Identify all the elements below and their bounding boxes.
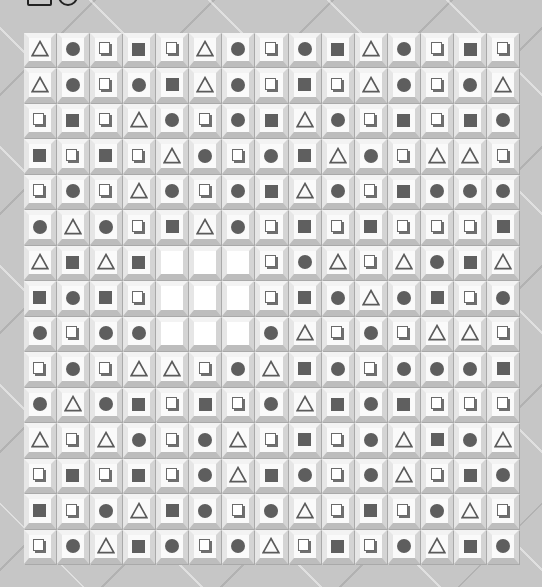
tile[interactable] (222, 139, 254, 174)
tile[interactable] (90, 33, 122, 68)
tile[interactable] (322, 352, 354, 387)
tile[interactable] (388, 33, 420, 68)
tile[interactable] (388, 281, 420, 316)
tile[interactable] (57, 352, 89, 387)
tile[interactable] (388, 68, 420, 103)
tile[interactable] (355, 494, 387, 529)
tile[interactable] (90, 104, 122, 139)
tile[interactable] (289, 352, 321, 387)
tile[interactable] (123, 281, 155, 316)
tile[interactable] (189, 494, 221, 529)
tile[interactable] (487, 68, 519, 103)
tile[interactable] (421, 139, 453, 174)
tile[interactable] (322, 423, 354, 458)
tile[interactable] (388, 352, 420, 387)
tile[interactable] (255, 33, 287, 68)
tile[interactable] (57, 68, 89, 103)
tile[interactable] (454, 246, 486, 281)
tile[interactable] (222, 352, 254, 387)
tile[interactable] (388, 388, 420, 423)
tile[interactable] (421, 459, 453, 494)
tile[interactable] (322, 388, 354, 423)
tile[interactable] (454, 494, 486, 529)
tile[interactable] (487, 352, 519, 387)
tile[interactable] (24, 281, 56, 316)
tile[interactable] (24, 246, 56, 281)
tile[interactable] (454, 352, 486, 387)
tile[interactable] (24, 210, 56, 245)
tile[interactable] (289, 68, 321, 103)
tile[interactable] (222, 494, 254, 529)
tile[interactable] (123, 423, 155, 458)
tile[interactable] (289, 530, 321, 565)
tile[interactable] (454, 210, 486, 245)
tile[interactable] (90, 68, 122, 103)
tile[interactable] (355, 139, 387, 174)
tile[interactable] (90, 246, 122, 281)
tile[interactable] (24, 33, 56, 68)
tile[interactable] (388, 423, 420, 458)
tile[interactable] (123, 104, 155, 139)
tile[interactable] (454, 459, 486, 494)
tile[interactable] (454, 68, 486, 103)
tile[interactable] (355, 388, 387, 423)
tile[interactable] (123, 246, 155, 281)
tile[interactable] (222, 104, 254, 139)
tile[interactable] (123, 459, 155, 494)
tile[interactable] (156, 388, 188, 423)
tile[interactable] (222, 210, 254, 245)
tile[interactable] (322, 317, 354, 352)
tile[interactable] (90, 494, 122, 529)
tile[interactable] (421, 104, 453, 139)
tile[interactable] (123, 33, 155, 68)
tile[interactable] (421, 246, 453, 281)
tile[interactable] (123, 175, 155, 210)
tile[interactable] (189, 459, 221, 494)
tile[interactable] (255, 139, 287, 174)
tile[interactable] (355, 352, 387, 387)
tile[interactable] (156, 68, 188, 103)
tile[interactable] (355, 104, 387, 139)
tile[interactable] (156, 210, 188, 245)
tile[interactable] (388, 459, 420, 494)
tile[interactable] (289, 175, 321, 210)
tile[interactable] (421, 388, 453, 423)
tile[interactable] (289, 104, 321, 139)
tile[interactable] (24, 139, 56, 174)
tile[interactable] (289, 459, 321, 494)
tile[interactable] (289, 210, 321, 245)
tile[interactable] (289, 388, 321, 423)
tile[interactable] (355, 317, 387, 352)
circle-icon[interactable] (58, 0, 78, 6)
tile[interactable] (454, 281, 486, 316)
tile[interactable] (90, 530, 122, 565)
tile[interactable] (487, 175, 519, 210)
tile[interactable] (255, 459, 287, 494)
tile[interactable] (289, 139, 321, 174)
tile[interactable] (454, 33, 486, 68)
tile[interactable] (24, 68, 56, 103)
tile[interactable] (454, 317, 486, 352)
tile[interactable] (255, 246, 287, 281)
tile[interactable] (123, 530, 155, 565)
tile[interactable] (421, 210, 453, 245)
tile[interactable] (189, 104, 221, 139)
tile[interactable] (156, 494, 188, 529)
tile[interactable] (255, 388, 287, 423)
tile[interactable] (255, 352, 287, 387)
tile[interactable] (24, 459, 56, 494)
tile[interactable] (24, 530, 56, 565)
tile[interactable] (57, 459, 89, 494)
tile[interactable] (24, 494, 56, 529)
tile[interactable] (156, 139, 188, 174)
empty-tile[interactable] (156, 281, 188, 316)
tile[interactable] (189, 210, 221, 245)
tile[interactable] (156, 530, 188, 565)
tile[interactable] (487, 423, 519, 458)
tile[interactable] (322, 68, 354, 103)
tile[interactable] (322, 175, 354, 210)
empty-tile[interactable] (222, 246, 254, 281)
tile[interactable] (156, 104, 188, 139)
tile[interactable] (222, 459, 254, 494)
tile[interactable] (123, 210, 155, 245)
